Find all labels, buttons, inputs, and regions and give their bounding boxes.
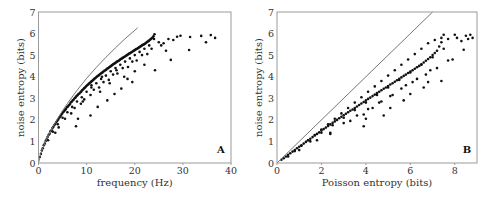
x-tick-label: 4 [363, 165, 369, 176]
data-point [367, 108, 370, 111]
data-point [442, 33, 445, 36]
data-point [440, 80, 443, 83]
data-point [126, 78, 129, 81]
data-point [47, 139, 50, 142]
x-tick-label: 20 [129, 165, 141, 176]
data-point [454, 33, 457, 36]
data-point [57, 126, 60, 129]
data-point [398, 79, 401, 82]
data-point [405, 73, 408, 76]
data-point [289, 152, 292, 155]
data-point [57, 123, 60, 126]
y-axis-label-a: noise entropy (bits) [15, 38, 26, 137]
y-tick-label: 4 [29, 71, 35, 82]
data-point [54, 132, 57, 135]
data-point [214, 37, 217, 40]
data-point [205, 41, 208, 44]
data-point [331, 124, 334, 127]
data-point [120, 87, 123, 90]
plot-frame-a [39, 12, 232, 163]
y-tick-label: 6 [29, 28, 35, 39]
data-point [367, 91, 370, 94]
data-point [89, 114, 92, 117]
y-tick-label: 0 [268, 158, 274, 169]
data-point [318, 131, 321, 134]
x-ticks-b: 02468 [274, 163, 458, 176]
data-point [77, 118, 80, 121]
data-point [102, 81, 105, 84]
y-tick-label: 1 [29, 136, 35, 147]
data-point [456, 37, 459, 40]
data-point [334, 120, 337, 123]
data-point [112, 73, 115, 76]
reference-curve-a [39, 28, 138, 163]
data-point [378, 101, 381, 104]
data-point [291, 150, 294, 153]
data-point [105, 74, 108, 77]
data-point [311, 136, 314, 139]
y-tick-label: 1 [268, 136, 274, 147]
data-point [358, 104, 361, 107]
data-point [394, 69, 397, 72]
data-point [436, 67, 439, 70]
data-point [342, 116, 345, 119]
data-point [469, 33, 472, 36]
data-point [347, 111, 350, 114]
y-ticks-b: 01234567 [268, 7, 274, 169]
figure: 010203040 01234567 frequency (Hz) noise … [0, 0, 501, 197]
data-point [400, 76, 403, 79]
data-point [121, 67, 124, 70]
y-tick-label: 5 [268, 50, 274, 61]
data-point [342, 114, 345, 117]
data-point [131, 60, 134, 63]
data-point [134, 70, 137, 73]
data-point [378, 91, 381, 94]
data-point [154, 69, 157, 72]
data-point [305, 141, 308, 144]
x-ticks-a: 010203040 [35, 163, 237, 176]
data-point [101, 75, 104, 78]
data-point [162, 42, 165, 45]
data-point [367, 98, 370, 101]
data-point [447, 59, 450, 62]
x-axis-label-b: Poisson entropy (bits) [322, 177, 433, 188]
data-point [109, 70, 112, 73]
data-point [80, 102, 83, 105]
data-point [309, 138, 312, 141]
data-point [351, 108, 354, 111]
y-tick-label: 4 [268, 71, 274, 82]
data-point [329, 133, 332, 136]
data-point [409, 93, 412, 96]
data-point [106, 99, 109, 102]
data-point [389, 83, 392, 86]
data-point [422, 61, 425, 64]
data-point [188, 49, 191, 52]
data-point [143, 47, 146, 50]
data-point [402, 99, 405, 102]
x-tick-label: 0 [274, 165, 280, 176]
data-point [427, 42, 430, 45]
y-tick-label: 2 [268, 114, 274, 125]
y-tick-label: 3 [268, 93, 274, 104]
data-point [307, 139, 310, 142]
y-tick-label: 6 [268, 28, 274, 39]
data-point [429, 56, 432, 59]
data-point [108, 79, 111, 82]
data-point [391, 94, 394, 97]
data-point [416, 78, 419, 81]
data-point [394, 80, 397, 83]
data-point [116, 72, 119, 75]
data-point [85, 91, 88, 94]
data-point [380, 80, 383, 83]
data-point [442, 47, 445, 50]
data-point [414, 53, 417, 56]
data-point [82, 100, 85, 103]
data-point [411, 69, 414, 72]
data-point [402, 75, 405, 78]
data-point [440, 37, 443, 40]
y-tick-label: 5 [29, 50, 35, 61]
data-point [73, 107, 76, 110]
data-point [436, 50, 439, 53]
data-point [347, 107, 350, 110]
data-point [420, 47, 423, 50]
